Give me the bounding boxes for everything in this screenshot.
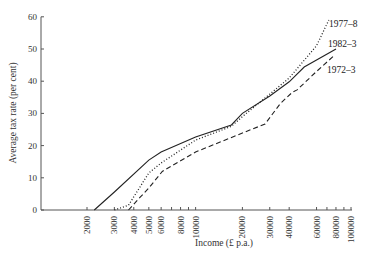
series-line-1972-3 bbox=[129, 55, 335, 210]
x-tick-label: 4000 bbox=[129, 216, 139, 235]
axes: 0102030405060200030004000500060008000100… bbox=[28, 12, 356, 243]
y-tick-label: 60 bbox=[28, 12, 38, 22]
series-lines bbox=[94, 20, 336, 210]
tax-rate-chart: 0102030405060200030004000500060008000100… bbox=[0, 0, 371, 264]
x-tick-label: 100000 bbox=[346, 216, 356, 244]
x-tick-label: 5000 bbox=[144, 216, 154, 235]
y-tick-label: 30 bbox=[28, 108, 38, 118]
x-tick-label: 80000 bbox=[331, 216, 341, 239]
y-tick-label: 20 bbox=[28, 141, 38, 151]
series-label-1982-3: 1982–3 bbox=[328, 39, 357, 49]
x-tick-label: 3000 bbox=[109, 216, 119, 235]
series-label-1972-3: 1972–3 bbox=[327, 65, 356, 75]
x-tick-label: 30000 bbox=[265, 216, 275, 239]
series-line-1982-3 bbox=[94, 49, 336, 210]
series-line-1977-8 bbox=[114, 20, 328, 210]
x-axis-title: Income (£ p.a.) bbox=[195, 238, 253, 249]
y-tick-label: 40 bbox=[28, 76, 38, 86]
y-axis-title: Average tax rate (per cent) bbox=[8, 62, 19, 163]
x-tick-label: 10000 bbox=[191, 216, 201, 239]
x-tick-label: 8000 bbox=[176, 216, 186, 235]
series-label-1977-8: 1977–8 bbox=[329, 19, 358, 29]
x-tick-label: 40000 bbox=[284, 216, 294, 239]
y-tick-label: 10 bbox=[28, 173, 38, 183]
y-tick-label: 50 bbox=[28, 44, 38, 54]
x-tick-label: 2000 bbox=[82, 216, 92, 235]
x-tick-label: 60000 bbox=[312, 216, 322, 239]
x-tick-label: 6000 bbox=[156, 216, 166, 235]
x-tick-label: 20000 bbox=[237, 216, 247, 239]
y-tick-label: 0 bbox=[33, 205, 38, 215]
